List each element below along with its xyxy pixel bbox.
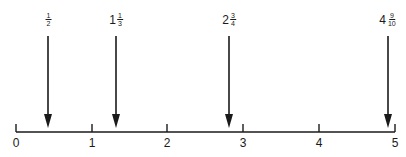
marker-whole: 4 <box>379 14 386 26</box>
marker-label-half: 1 2 <box>45 12 52 27</box>
marker-numerator: 1 <box>117 12 123 20</box>
marker-numerator: 1 <box>46 12 52 20</box>
tick-label-2: 2 <box>164 137 171 149</box>
marker-fraction: 1 3 <box>117 12 123 27</box>
marker-numerator: 3 <box>230 12 236 20</box>
marker-whole: 1 <box>109 14 116 26</box>
marker-whole: 2 <box>222 14 229 26</box>
tick-label-3: 3 <box>240 137 247 149</box>
tick-label-5: 5 <box>392 137 399 149</box>
marker-denominator: 4 <box>230 20 236 27</box>
arrow-four-and-nine-tenths <box>384 36 392 128</box>
marker-fraction: 1 2 <box>46 12 52 27</box>
marker-denominator: 10 <box>387 20 397 27</box>
marker-fraction: 9 10 <box>387 12 397 27</box>
number-line-svg <box>0 0 406 157</box>
marker-label-one-and-one-third: 1 1 3 <box>109 12 123 27</box>
marker-numerator: 9 <box>389 12 395 20</box>
tick-label-0: 0 <box>13 137 20 149</box>
arrow-half <box>44 36 52 128</box>
arrow-two-and-three-quarters <box>225 36 233 128</box>
arrow-one-and-one-third <box>112 36 120 128</box>
marker-denominator: 2 <box>46 20 52 27</box>
tick-label-4: 4 <box>316 137 323 149</box>
marker-denominator: 3 <box>117 20 123 27</box>
number-line-diagram: 1 2 1 1 3 2 3 4 4 9 10 0 1 2 3 4 5 <box>0 0 406 157</box>
marker-label-two-and-three-quarters: 2 3 4 <box>222 12 236 27</box>
tick-label-1: 1 <box>89 137 96 149</box>
marker-fraction: 3 4 <box>230 12 236 27</box>
marker-label-four-and-nine-tenths: 4 9 10 <box>379 12 396 27</box>
